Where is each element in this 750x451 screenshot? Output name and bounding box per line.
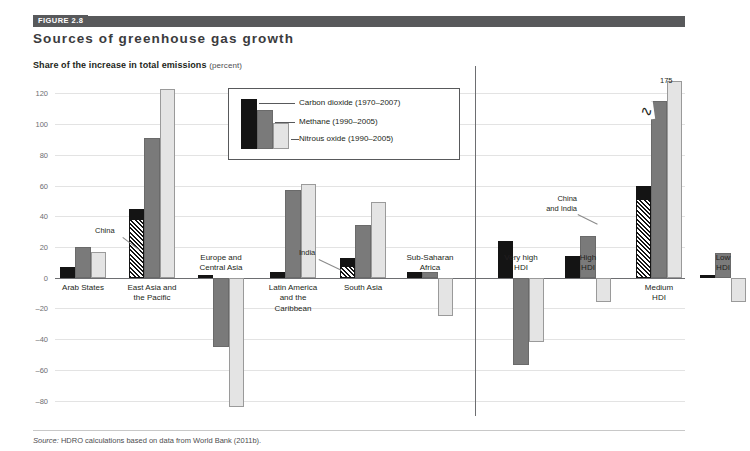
bar-2-4 bbox=[371, 202, 387, 277]
legend-swatch-nitrous-oxide bbox=[273, 123, 289, 149]
data-label-175: 175 bbox=[660, 76, 673, 85]
bar-highlight-cap-4 bbox=[340, 258, 356, 267]
annotation-india: India bbox=[299, 248, 315, 258]
legend-swatch-carbon-dioxide bbox=[241, 99, 257, 149]
gridline bbox=[55, 401, 685, 402]
figure-header-bar bbox=[33, 16, 685, 27]
y-tick-label: –80 bbox=[18, 396, 48, 405]
bar-2-9 bbox=[731, 278, 747, 303]
bar-1-2 bbox=[213, 278, 229, 347]
category-label: Sub-Saharan Africa bbox=[387, 253, 473, 274]
bar-1-4 bbox=[355, 225, 371, 277]
bar-2-2 bbox=[229, 278, 245, 407]
bar-2-5 bbox=[438, 278, 454, 316]
y-tick-label: 100 bbox=[18, 120, 48, 129]
y-tick-label: 60 bbox=[18, 181, 48, 190]
legend-label-carbon-dioxide: Carbon dioxide (1970–2007) bbox=[299, 98, 400, 107]
bar-1-6 bbox=[513, 278, 529, 366]
group-divider-line bbox=[475, 66, 476, 416]
bar-highlight-cap-8 bbox=[636, 186, 652, 200]
y-tick-label: 40 bbox=[18, 212, 48, 221]
category-label: Low HDI bbox=[680, 253, 750, 274]
category-label: South Asia bbox=[320, 283, 406, 294]
y-tick-label: 120 bbox=[18, 89, 48, 98]
bar-2-8 bbox=[667, 81, 683, 278]
chart-subtitle: Share of the increase in total emissions… bbox=[33, 60, 242, 70]
y-tick-label: –60 bbox=[18, 365, 48, 374]
gridline bbox=[55, 339, 685, 340]
bar-0-0 bbox=[60, 267, 76, 278]
figure-tag: FIGURE 2.8 bbox=[33, 15, 88, 27]
bar-0-3 bbox=[270, 272, 286, 278]
category-label: East Asia and the Pacific bbox=[109, 283, 195, 304]
y-tick-label: 20 bbox=[18, 243, 48, 252]
bar-0-2 bbox=[198, 275, 214, 278]
bar-2-1 bbox=[160, 89, 176, 278]
source-text: HDRO calculations based on data from Wor… bbox=[61, 436, 261, 445]
legend-leader-nitrous-oxide bbox=[291, 139, 299, 140]
bar-1-0 bbox=[75, 247, 91, 278]
page-title: Sources of greenhouse gas growth bbox=[33, 31, 294, 46]
annotation-china-and-india: China and India bbox=[525, 194, 577, 213]
subtitle-text: Share of the increase in total emissions bbox=[33, 60, 207, 70]
y-tick-label: 80 bbox=[18, 150, 48, 159]
bar-2-3 bbox=[301, 184, 317, 278]
y-tick-label: –20 bbox=[18, 304, 48, 313]
source-prefix: Source: bbox=[33, 436, 59, 445]
subtitle-unit: (percent) bbox=[209, 61, 242, 70]
bar-2-0 bbox=[91, 252, 107, 278]
gridline bbox=[55, 308, 685, 309]
bar-2-6 bbox=[529, 278, 545, 343]
legend-leader-methane bbox=[275, 122, 295, 123]
legend-swatch-methane bbox=[257, 110, 273, 149]
chart-legend: Carbon dioxide (1970–2007) Methane (1990… bbox=[228, 88, 460, 160]
legend-label-methane: Methane (1990–2005) bbox=[299, 117, 378, 126]
bar-1-1 bbox=[144, 138, 160, 278]
gridline bbox=[55, 370, 685, 371]
category-label: High HDI bbox=[545, 253, 631, 274]
annotation-china: China bbox=[95, 226, 115, 236]
y-tick-label: –40 bbox=[18, 335, 48, 344]
zero-axis-line bbox=[55, 278, 685, 279]
bar-1-3 bbox=[285, 190, 301, 278]
bar-1-8 bbox=[651, 101, 667, 278]
source-note: Source: HDRO calculations based on data … bbox=[33, 436, 261, 445]
category-label: Medium HDI bbox=[616, 283, 702, 304]
footer-divider bbox=[33, 430, 685, 431]
bar-0-9 bbox=[700, 275, 716, 278]
category-label: Europe and Central Asia bbox=[178, 253, 264, 274]
legend-label-nitrous-oxide: Nitrous oxide (1990–2005) bbox=[299, 134, 393, 143]
legend-leader-carbon-dioxide bbox=[259, 103, 295, 104]
axis-break-icon: ∿ bbox=[638, 101, 655, 121]
bar-2-7 bbox=[596, 278, 612, 303]
y-tick-label: 0 bbox=[18, 273, 48, 282]
annotation-india-leader bbox=[319, 259, 342, 271]
bar-highlight-cap-1 bbox=[129, 209, 145, 220]
